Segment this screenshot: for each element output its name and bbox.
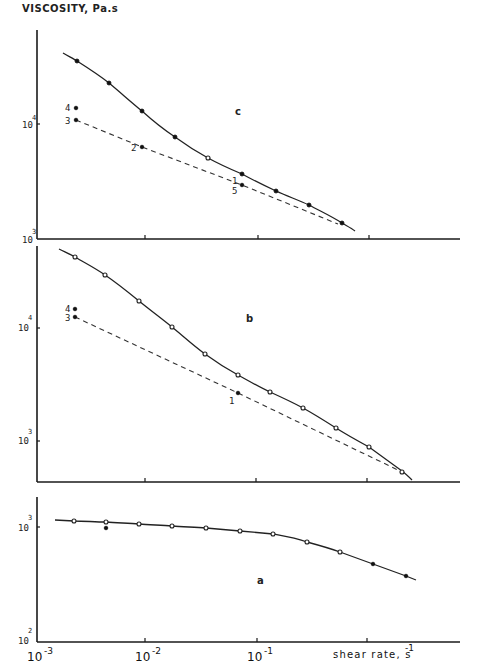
panel-a-label: a xyxy=(257,575,264,586)
panel-b-flow-curve xyxy=(59,249,412,480)
panel-c-point-2 xyxy=(140,145,144,149)
svg-text:3: 3 xyxy=(65,313,70,323)
svg-text:3: 3 xyxy=(32,228,36,236)
panel-c-point-3 xyxy=(74,118,78,122)
panel-a: 10 3 10 2 a 10 -3 10 -2 10 -1 shear rate… xyxy=(18,497,460,664)
svg-text:4: 4 xyxy=(65,103,70,113)
xtick-1e-3: 10 xyxy=(27,650,42,664)
panel-c-point-4 xyxy=(74,106,78,110)
svg-text:2: 2 xyxy=(131,143,136,153)
panel-a-ytick-high: 10 xyxy=(18,523,29,533)
panel-c-dashed-line xyxy=(76,120,338,224)
panel-c-point-1 xyxy=(240,183,244,187)
panel-b-point-4 xyxy=(73,307,77,311)
svg-text:1: 1 xyxy=(232,176,237,186)
panel-c-label: c xyxy=(235,106,241,117)
svg-text:-3: -3 xyxy=(44,646,53,656)
viscosity-figure: VISCOSITY, Pa.s 10 4 10 3 4 3 xyxy=(0,0,484,670)
panel-b-ytick-high: 10 xyxy=(18,323,29,333)
xtick-1e-1: 10 xyxy=(247,650,262,664)
svg-text:3: 3 xyxy=(65,116,70,126)
y-axis-title: VISCOSITY, Pa.s xyxy=(22,3,118,14)
panel-b: 10 4 10 3 4 3 1 b xyxy=(18,246,460,482)
svg-text:-2: -2 xyxy=(152,646,161,656)
panel-b-point-3 xyxy=(73,315,77,319)
panel-a-markers xyxy=(72,519,408,578)
svg-text:2: 2 xyxy=(28,627,32,635)
svg-text:-1: -1 xyxy=(264,646,273,656)
panel-c: 10 4 10 3 4 3 2 1 5 c xyxy=(22,30,460,245)
panel-b-label: b xyxy=(246,313,253,324)
svg-text:-1: -1 xyxy=(405,643,414,653)
panel-b-point-1 xyxy=(236,391,240,395)
panel-a-flow-curve xyxy=(55,520,416,580)
panel-a-single-point xyxy=(104,526,108,530)
svg-text:3: 3 xyxy=(28,428,32,436)
x-axis-title: shear rate, s xyxy=(333,649,412,660)
svg-text:4: 4 xyxy=(28,314,32,322)
svg-text:1: 1 xyxy=(229,396,234,406)
panel-c-ytick-low: 10 xyxy=(22,235,33,245)
panel-b-ytick-low: 10 xyxy=(18,436,29,446)
svg-text:5: 5 xyxy=(232,186,237,196)
panel-c-markers xyxy=(75,59,344,225)
xtick-1e-2: 10 xyxy=(135,650,150,664)
svg-text:4: 4 xyxy=(32,114,36,122)
panel-a-ytick-low: 10 xyxy=(18,636,29,646)
svg-text:3: 3 xyxy=(28,514,32,522)
